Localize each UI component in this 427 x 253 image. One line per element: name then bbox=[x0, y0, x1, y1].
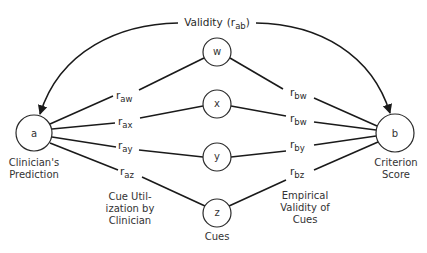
node-z: z bbox=[203, 199, 231, 227]
edge-label-r-aw: raw bbox=[116, 89, 133, 104]
caption-cue-utilization-3: Clinician bbox=[109, 215, 151, 226]
node-x-label: x bbox=[214, 98, 220, 109]
validity-arc-right bbox=[256, 23, 390, 113]
node-b-label: b bbox=[392, 128, 398, 139]
validity-title: Validity(rab) bbox=[184, 16, 250, 31]
caption-empirical-validity-3: Cues bbox=[293, 214, 318, 225]
node-x: x bbox=[203, 90, 231, 118]
right-edges bbox=[229, 58, 378, 206]
edge-label-r-az: raz bbox=[120, 165, 135, 180]
node-z-label: z bbox=[214, 207, 219, 218]
caption-clinicians-prediction-1: Clinician's bbox=[9, 157, 59, 168]
edge-label-r-by: rby bbox=[290, 138, 305, 153]
node-w-label: w bbox=[213, 46, 221, 57]
node-b: b bbox=[376, 114, 414, 152]
validity-arc-left bbox=[40, 23, 178, 114]
caption-empirical-validity-2: Validity of bbox=[280, 202, 330, 213]
lens-model-diagram: Validity(rab) raw rax ray raz rbw rbw rb… bbox=[0, 0, 427, 253]
caption-cues: Cues bbox=[205, 231, 230, 242]
edge-label-r-ax: rax bbox=[118, 115, 133, 130]
edge-label-r-ay: ray bbox=[118, 139, 133, 154]
caption-criterion-score-2: Score bbox=[382, 169, 410, 180]
caption-empirical-validity-1: Empirical bbox=[282, 190, 328, 201]
node-y: y bbox=[203, 143, 231, 171]
node-a-label: a bbox=[31, 128, 37, 139]
node-w: w bbox=[203, 38, 231, 66]
node-y-label: y bbox=[214, 151, 220, 162]
caption-cue-utilization-1: Cue Util- bbox=[108, 191, 151, 202]
edge-label-r-bw: rbw bbox=[290, 86, 307, 101]
edge-label-r-bx: rbw bbox=[290, 112, 307, 127]
node-a: a bbox=[16, 115, 52, 151]
caption-clinicians-prediction-2: Prediction bbox=[9, 169, 59, 180]
left-edges bbox=[50, 58, 205, 206]
edge-label-r-bz: rbz bbox=[290, 165, 305, 180]
caption-cue-utilization-2: ization by bbox=[106, 203, 155, 214]
caption-criterion-score-1: Criterion bbox=[374, 157, 417, 168]
